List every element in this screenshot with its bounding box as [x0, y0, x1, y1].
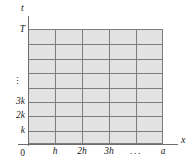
t-tick-label-3k: 3k	[0, 96, 25, 106]
x-tick-label-a: a	[161, 146, 166, 157]
x-tick-label-h: h	[53, 146, 58, 157]
grid-hline-4	[29, 88, 162, 89]
grid-vline-3h	[109, 30, 110, 143]
finite-difference-grid-figure: t x T ⋮ 3k 2k k 0 h 2h 3h ... a	[0, 0, 194, 166]
t-tick-label-k: k	[0, 125, 25, 135]
x-tick-label-2h: 2h	[77, 146, 87, 157]
grid-hline-6	[29, 59, 162, 60]
grid-hline-2k	[29, 116, 162, 117]
grid-vline-2h	[82, 30, 83, 143]
t-tick-label-ellipsis: ⋮	[12, 77, 22, 86]
t-axis-tick-labels: T ⋮ 3k 2k k 0	[0, 0, 25, 166]
grid-hline-k	[29, 131, 162, 132]
x-tick-label-3h: 3h	[104, 146, 114, 157]
grid-vline-h	[55, 30, 56, 143]
grid-hline-3k	[29, 102, 162, 103]
x-axis-tick-labels: h 2h 3h ... a	[0, 146, 194, 166]
t-tick-label-T: T	[0, 24, 25, 34]
grid-hline-7	[29, 44, 162, 45]
x-axis-label: x	[181, 135, 185, 145]
grid-area	[28, 29, 163, 144]
grid-hline-5	[29, 73, 162, 74]
x-tick-label-ellipsis: ...	[130, 146, 142, 157]
t-tick-label-2k: 2k	[0, 110, 25, 120]
grid-vline-dots	[136, 30, 137, 143]
t-axis-line	[28, 16, 29, 146]
